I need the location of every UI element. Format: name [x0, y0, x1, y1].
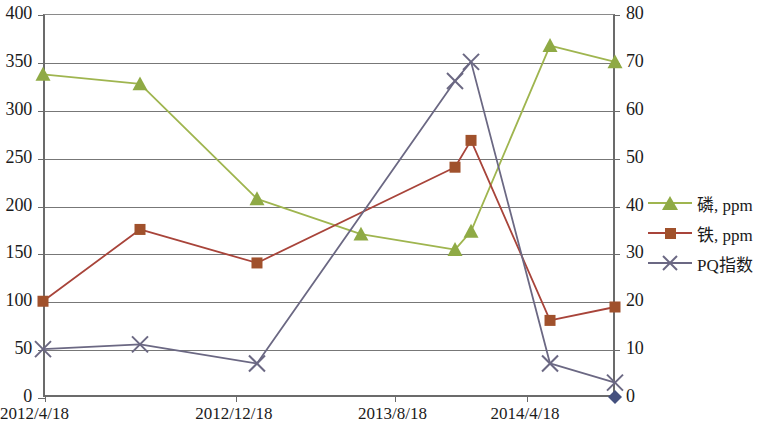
y-axis-right-tick: [613, 254, 620, 255]
plot-area: [43, 14, 615, 397]
y-axis-right-label: 20: [626, 290, 644, 311]
legend-item[interactable]: 磷, ppm: [648, 188, 763, 218]
x-axis-tick: [45, 395, 46, 402]
y-axis-left-tick: [38, 15, 45, 16]
legend-label: 磷, ppm: [692, 191, 753, 216]
x-axis-label: 2012/4/18: [0, 404, 69, 424]
y-axis-right-tick: [613, 111, 620, 112]
y-axis-right-label: 70: [626, 51, 644, 72]
y-axis-left-tick: [38, 350, 45, 351]
y-axis-right-label: 30: [626, 242, 644, 263]
gridline: [45, 63, 613, 64]
legend-item[interactable]: PQ指数: [648, 248, 763, 278]
y-axis-right-tick: [613, 159, 620, 160]
y-axis-left-tick: [38, 63, 45, 64]
legend-swatch-square-icon: [648, 223, 692, 243]
x-axis-tick: [527, 395, 528, 402]
y-axis-right-tick: [613, 63, 620, 64]
x-axis-label: 2012/12/18: [195, 404, 272, 424]
y-axis-left-label: 200: [0, 195, 32, 216]
x-axis-label: 2014/4/18: [490, 404, 559, 424]
y-axis-right-tick: [613, 207, 620, 208]
y-axis-left-label: 350: [0, 51, 32, 72]
y-axis-left-tick: [38, 159, 45, 160]
legend-label: 铁, ppm: [692, 221, 753, 246]
y-axis-right-tick: [613, 302, 620, 303]
x-axis-tick: [395, 395, 396, 402]
y-axis-right-tick: [613, 350, 620, 351]
gridline: [45, 350, 613, 351]
legend-swatch-triangle-icon: [648, 193, 692, 213]
y-axis-right-label: 50: [626, 147, 644, 168]
legend-marker-square-icon: [665, 228, 676, 239]
y-axis-right-label: 40: [626, 195, 644, 216]
chart-root: 磷, ppm铁, ppmPQ指数 05010015020025030035040…: [0, 0, 763, 426]
y-axis-left-tick: [38, 302, 45, 303]
y-axis-left-label: 100: [0, 290, 32, 311]
y-axis-left-label: 50: [0, 338, 32, 359]
y-axis-left-tick: [38, 207, 45, 208]
y-axis-left-tick: [38, 111, 45, 112]
y-axis-right-label: 80: [626, 3, 644, 24]
y-axis-right-label: 60: [626, 99, 644, 120]
legend-label: PQ指数: [692, 251, 753, 276]
x-axis-label: 2013/8/18: [358, 404, 427, 424]
y-axis-left-label: 250: [0, 147, 32, 168]
y-axis-left-tick: [38, 398, 45, 399]
y-axis-left-label: 400: [0, 3, 32, 24]
legend-item[interactable]: 铁, ppm: [648, 218, 763, 248]
y-axis-left-label: 300: [0, 99, 32, 120]
legend-marker-cross-icon: [661, 254, 677, 270]
gridline: [45, 302, 613, 303]
gridline: [45, 254, 613, 255]
x-axis-tick: [236, 395, 237, 402]
y-axis-right-tick: [613, 15, 620, 16]
gridline: [45, 207, 613, 208]
y-axis-left-label: 150: [0, 242, 32, 263]
chart-legend: 磷, ppm铁, ppmPQ指数: [648, 188, 763, 278]
legend-swatch-cross-icon: [648, 253, 692, 273]
y-axis-right-tick: [613, 398, 620, 399]
gridline: [45, 159, 613, 160]
y-axis-left-tick: [38, 254, 45, 255]
y-axis-right-label: 0: [626, 386, 635, 407]
y-axis-right-label: 10: [626, 338, 644, 359]
legend-marker-triangle-icon: [662, 196, 678, 210]
gridline: [45, 111, 613, 112]
